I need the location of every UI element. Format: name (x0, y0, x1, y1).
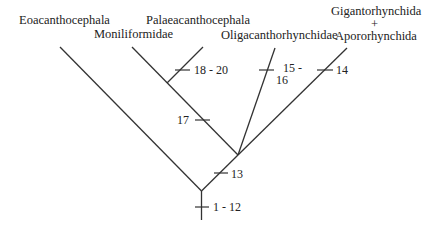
branch-oligacanthorhynchidae (238, 48, 275, 155)
taxon-oligacanthorhynchidae: Oligacanthorhynchidae (221, 28, 338, 42)
char-label-13: 13 (231, 167, 243, 181)
char-label-16: 16 (276, 73, 288, 87)
char-label-17: 17 (177, 113, 189, 127)
char-label-1-12: 1 - 12 (213, 200, 241, 214)
cladogram-diagram: Eoacanthocephala Palaeacanthocephala Mon… (0, 0, 432, 228)
taxon-eoacanthocephala: Eoacanthocephala (19, 13, 110, 27)
char-label-18-20: 18 - 20 (194, 63, 228, 77)
taxon-gigantorhynchida: Gigantorhynchida (331, 4, 422, 18)
char-label-14: 14 (336, 63, 348, 77)
taxon-palaeacanthocephala: Palaeacanthocephala (146, 13, 251, 27)
taxon-apororhynchida: Apororhynchida (335, 29, 417, 43)
taxon-moniliformidae: Moniliformidae (94, 27, 174, 41)
cladogram-svg: Eoacanthocephala Palaeacanthocephala Mon… (0, 0, 432, 228)
